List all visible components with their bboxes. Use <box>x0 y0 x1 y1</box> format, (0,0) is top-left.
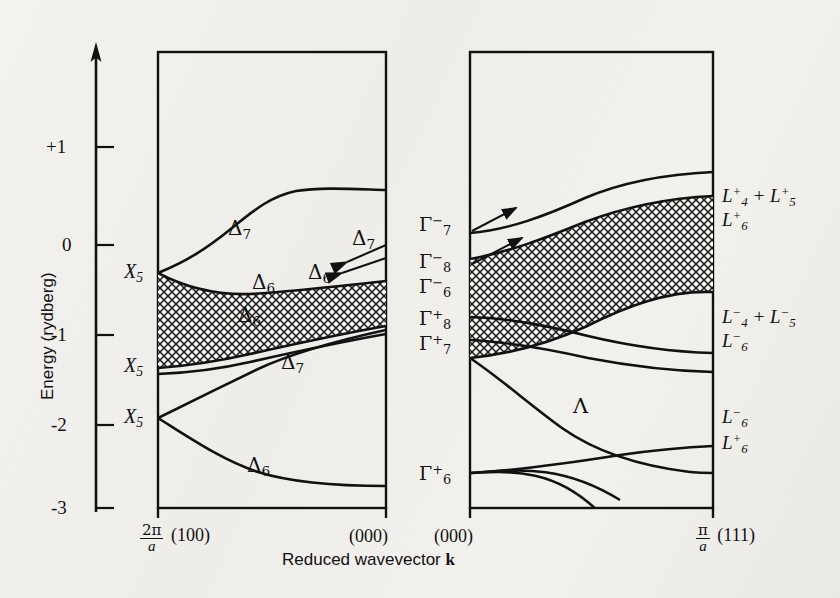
y-tick-label-minus2: -2 <box>51 415 67 434</box>
y-tick-label-0: 0 <box>62 235 72 254</box>
inner-label-delta6-gaptop: Δ6 <box>252 272 275 295</box>
y-tick-label-minus3: -3 <box>51 498 67 517</box>
band-structure-figure: Energy (rydberg) +1 0 -1 -2 -3 X5 X5 X5 … <box>0 0 840 598</box>
point-label-gamma7-plus: Γ+7 <box>419 334 451 357</box>
x-axis-ticks <box>158 508 713 518</box>
point-label-x5-upper: X5 <box>124 261 143 284</box>
point-label-gamma6-plus: Γ+6 <box>419 464 451 487</box>
point-label-L4minus-L5minus: L−4 + L−5 <box>722 307 796 330</box>
point-label-L6plus-upper: L+6 <box>722 210 748 233</box>
point-label-gamma8-minus: Γ−8 <box>419 252 451 275</box>
inner-label-delta7-lower: Δ7 <box>281 352 304 375</box>
y-tick-label-plus1: +1 <box>46 137 66 156</box>
inner-label-delta7-upper: Δ7 <box>228 218 251 241</box>
inner-label-delta6-bottom: Δ6 <box>247 455 270 478</box>
point-label-gamma6-minus: Γ−6 <box>419 277 451 300</box>
point-label-gamma8-plus: Γ+8 <box>419 309 451 332</box>
point-label-x5-middle: X5 <box>124 355 143 378</box>
lambda-diving-band <box>470 358 713 473</box>
x-axis-title: Reduced wavevector k <box>282 551 455 568</box>
inner-label-delta7-pointer: Δ7 <box>352 228 375 251</box>
inner-label-lambda: Λ <box>573 396 588 417</box>
point-label-L6minus-lower: L−6 <box>722 407 748 430</box>
y-tick-label-minus1: -1 <box>51 325 67 344</box>
lambda-panel-bands <box>470 172 713 513</box>
point-label-L6plus-lower: L+6 <box>722 433 748 456</box>
gamma7minus-pointer-arrow <box>472 208 516 231</box>
gamma6plus-band <box>470 470 620 513</box>
point-label-gamma7-minus: Γ−7 <box>419 215 451 238</box>
x-label-delta-right: (000) <box>349 527 388 545</box>
x-label-lambda-left: (000) <box>434 527 473 545</box>
point-label-L6minus-upper: L−6 <box>722 331 748 354</box>
x-label-lambda-right: π a (111) <box>696 523 755 555</box>
y-axis <box>91 42 115 512</box>
point-label-L4plus-L5plus: L+4 + L+5 <box>722 186 796 209</box>
delta6-falling-band <box>158 418 386 486</box>
inner-label-delta6-pointer: Δ6 <box>308 262 331 285</box>
inner-label-delta6-ingap: Δ6 <box>238 305 261 328</box>
x-label-delta-left: 2π a (100) <box>140 523 210 555</box>
point-label-x5-lower: X5 <box>124 406 143 429</box>
